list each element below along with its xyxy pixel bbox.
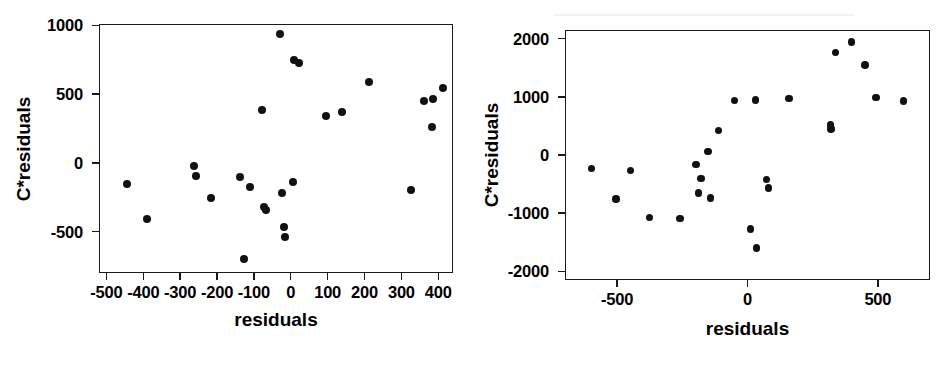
data-point bbox=[707, 194, 715, 202]
data-point bbox=[861, 61, 869, 69]
data-point bbox=[752, 96, 760, 104]
x-tick-label-left-3: -200 bbox=[201, 283, 233, 302]
y-tick-label-left-0: -500 bbox=[51, 222, 83, 241]
data-point bbox=[240, 255, 248, 263]
x-tick-left-8 bbox=[401, 273, 402, 280]
data-point bbox=[123, 180, 131, 188]
data-point bbox=[692, 161, 700, 169]
plot-area-left bbox=[99, 24, 453, 273]
x-tick-left-1 bbox=[143, 273, 144, 280]
y-tick-label-right-1: -1000 bbox=[508, 204, 549, 223]
y-tick-right-4 bbox=[558, 38, 565, 39]
data-point bbox=[276, 30, 284, 38]
x-tick-left-3 bbox=[216, 273, 217, 280]
x-tick-left-9 bbox=[438, 273, 439, 280]
x-tick-label-right-2: 500 bbox=[864, 290, 891, 309]
y-tick-right-3 bbox=[558, 96, 565, 97]
y-tick-left-1 bbox=[92, 162, 99, 163]
data-point bbox=[612, 195, 620, 203]
y-tick-label-left-3: 1000 bbox=[47, 16, 83, 35]
x-axis-title-right: residuals bbox=[706, 318, 789, 340]
y-tick-left-2 bbox=[92, 93, 99, 94]
data-point bbox=[280, 223, 288, 231]
y-tick-label-right-3: 1000 bbox=[513, 87, 549, 106]
data-point bbox=[143, 215, 151, 223]
scan-artifact bbox=[554, 14, 854, 16]
y-tick-label-left-1: 0 bbox=[74, 153, 83, 172]
y-tick-label-right-0: -2000 bbox=[508, 262, 549, 281]
x-tick-label-left-8: 300 bbox=[388, 283, 415, 302]
data-point bbox=[192, 172, 200, 180]
y-tick-left-0 bbox=[92, 231, 99, 232]
x-axis-title-left: residuals bbox=[234, 309, 317, 331]
x-tick-label-left-9: 400 bbox=[425, 283, 452, 302]
y-axis-title-left-text: C*residuals bbox=[13, 96, 35, 201]
y-tick-label-left-2: 500 bbox=[56, 85, 83, 104]
y-axis-title-right-text: C*residuals bbox=[481, 103, 503, 208]
x-tick-label-left-1: -400 bbox=[127, 283, 159, 302]
data-point bbox=[439, 84, 447, 92]
x-tick-left-7 bbox=[364, 273, 365, 280]
y-tick-right-0 bbox=[558, 271, 565, 272]
y-tick-label-right-2: 0 bbox=[540, 146, 549, 165]
x-tick-label-left-2: -300 bbox=[164, 283, 196, 302]
chart-panel-right: -5000500-2000-1000010002000 residuals C*… bbox=[470, 0, 941, 367]
y-tick-right-1 bbox=[558, 212, 565, 213]
x-tick-left-2 bbox=[179, 273, 180, 280]
data-point bbox=[848, 38, 856, 46]
data-point bbox=[289, 178, 297, 186]
chart-panel-left: -500-400-300-200-1000100200300400-500050… bbox=[0, 0, 470, 367]
x-tick-right-0 bbox=[616, 280, 617, 287]
x-tick-label-right-1: 0 bbox=[743, 290, 752, 309]
residual-scatter-figure: -500-400-300-200-1000100200300400-500050… bbox=[0, 0, 941, 367]
x-tick-left-6 bbox=[327, 273, 328, 280]
x-tick-label-left-6: 100 bbox=[314, 283, 341, 302]
x-tick-right-2 bbox=[877, 280, 878, 287]
x-tick-label-right-0: -500 bbox=[601, 290, 633, 309]
data-point bbox=[258, 106, 266, 114]
y-tick-label-right-4: 2000 bbox=[513, 29, 549, 48]
plot-area-right bbox=[565, 30, 930, 280]
data-point bbox=[900, 97, 908, 105]
data-point bbox=[190, 162, 198, 170]
data-point bbox=[704, 148, 712, 156]
x-tick-label-left-4: -100 bbox=[238, 283, 270, 302]
data-point bbox=[697, 175, 705, 183]
data-point bbox=[365, 78, 373, 86]
data-point bbox=[765, 184, 773, 192]
data-point bbox=[236, 173, 244, 181]
data-point bbox=[322, 112, 330, 120]
y-tick-left-3 bbox=[92, 25, 99, 26]
x-tick-left-4 bbox=[253, 273, 254, 280]
data-point bbox=[676, 215, 684, 223]
data-point bbox=[872, 94, 880, 102]
data-point bbox=[753, 244, 761, 252]
data-point bbox=[747, 225, 755, 233]
data-point bbox=[281, 233, 289, 241]
x-tick-label-left-5: 0 bbox=[286, 283, 295, 302]
data-point bbox=[827, 125, 835, 133]
y-tick-right-2 bbox=[558, 154, 565, 155]
data-point bbox=[278, 189, 286, 197]
x-tick-label-left-7: 200 bbox=[351, 283, 378, 302]
data-point bbox=[429, 95, 437, 103]
x-tick-right-1 bbox=[747, 280, 748, 287]
data-point bbox=[695, 189, 703, 197]
x-tick-left-5 bbox=[290, 273, 291, 280]
x-tick-label-left-0: -500 bbox=[90, 283, 122, 302]
x-tick-left-0 bbox=[106, 273, 107, 280]
